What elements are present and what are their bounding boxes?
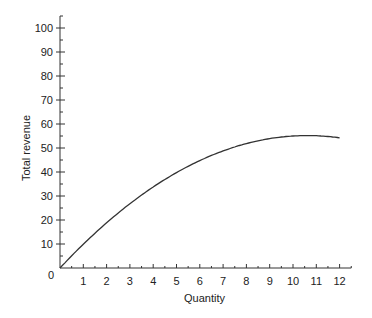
line-chart: 1234567891011121020304050607080901000Qua… [0,0,372,318]
y-tick-label: 30 [41,190,53,202]
y-axis-label: Total revenue [20,115,32,181]
y-tick-label: 40 [41,166,53,178]
x-tick-label: 9 [267,275,273,287]
chart: 1234567891011121020304050607080901000Qua… [0,0,372,318]
x-tick-label: 2 [104,275,110,287]
x-axis-label: Quantity [184,292,225,304]
x-tick-label: 11 [311,275,322,287]
x-tick-label: 6 [197,275,203,287]
x-tick-label: 7 [220,275,226,287]
x-tick-label: 12 [333,275,345,287]
y-tick-label: 60 [41,118,53,130]
origin-label: 0 [48,269,54,281]
x-tick-label: 5 [173,275,179,287]
y-tick-label: 10 [41,238,53,250]
y-tick-label: 100 [35,22,53,34]
y-tick-label: 90 [41,46,53,58]
x-tick-label: 8 [243,275,249,287]
y-tick-label: 70 [41,94,53,106]
x-tick-label: 1 [80,275,86,287]
y-tick-label: 80 [41,70,53,82]
x-tick-label: 10 [287,275,299,287]
x-tick-label: 3 [127,275,133,287]
y-tick-label: 50 [41,142,53,154]
x-tick-label: 4 [150,275,156,287]
total-revenue-curve [60,136,340,268]
y-tick-label: 20 [41,214,53,226]
